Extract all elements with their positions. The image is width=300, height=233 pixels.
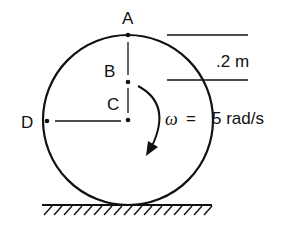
ground <box>42 205 212 215</box>
rolling-disk-diagram: A B C D .2 m ω = 5 rad/s <box>0 0 300 233</box>
rotation-arrow-icon <box>138 86 159 156</box>
label-b: B <box>104 62 115 81</box>
point-d <box>45 119 50 124</box>
equals-sign: = <box>186 109 196 128</box>
label-c: C <box>107 95 119 114</box>
omega-value: 5 rad/s <box>212 109 264 128</box>
omega-symbol: ω <box>165 109 178 129</box>
label-a: A <box>122 9 134 28</box>
point-c <box>126 118 131 123</box>
label-d: D <box>21 113 33 132</box>
dimension-label: .2 m <box>216 52 249 71</box>
point-a <box>126 33 131 38</box>
point-b <box>126 80 131 85</box>
